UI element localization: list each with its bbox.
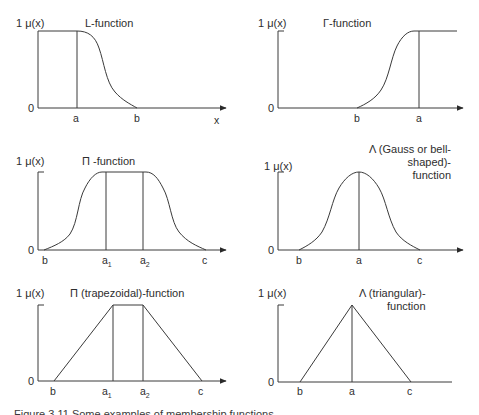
zero-label: 0 — [28, 244, 34, 256]
tick-label-c: c — [202, 254, 207, 266]
tick-label-c: c — [407, 385, 412, 397]
panel-title-line-2: shaped)- — [408, 156, 452, 168]
zero-label: 0 — [268, 376, 274, 388]
tick-label-a: a — [349, 385, 355, 397]
panel-title: Π -function — [82, 155, 135, 167]
y-axis — [38, 172, 44, 250]
y-axis — [278, 31, 284, 108]
membership-curve — [44, 172, 206, 250]
y-axis-label: 1 μ(x) — [16, 155, 44, 167]
membership-curve — [357, 31, 457, 108]
panel-triangular-function: 1 μ(x) Λ (triangular)- function 0 b a c — [258, 287, 452, 397]
panel-title-line-1: Λ (Gauss or bell- — [369, 143, 451, 155]
tick-label-b: b — [134, 112, 140, 124]
panel-title: L-function — [85, 17, 133, 29]
y-axis — [38, 305, 44, 381]
tick-label-a: a — [416, 112, 422, 124]
membership-curve — [300, 305, 411, 382]
tick-label-c: c — [417, 254, 422, 266]
zero-label: 0 — [268, 244, 274, 256]
panel-title-line-3: function — [412, 169, 451, 181]
tick-label-b: b — [354, 112, 360, 124]
membership-curve — [38, 31, 137, 108]
tick-label-a: a — [356, 254, 362, 266]
panel-l-function: 1 μ(x) L-function 0 a b x — [16, 17, 226, 126]
tick-label-a1: a1 — [102, 385, 112, 399]
tick-label-a: a — [73, 112, 79, 124]
panel-trapezoidal-function: 1 μ(x) Π (trapezoidal)-function 0 b a1 a… — [16, 287, 226, 399]
tick-label-b: b — [296, 254, 302, 266]
y-axis-label: 1 μ(x) — [264, 160, 292, 172]
x-axis-label: x — [214, 114, 220, 126]
panel-title-line-2: function — [387, 300, 426, 312]
y-axis — [278, 172, 284, 250]
tick-label-b: b — [297, 385, 303, 397]
tick-label-a1: a1 — [102, 254, 112, 268]
panel-title: Π (trapezoidal)-function — [70, 287, 184, 299]
panel-pi-function: 1 μ(x) Π -function 0 b a1 a2 c — [16, 155, 226, 268]
figure-caption: Figure 3.11 Some examples of membership … — [14, 406, 474, 415]
zero-label: 0 — [28, 375, 34, 387]
tick-label-b: b — [50, 385, 56, 397]
panel-title: Γ-function — [323, 17, 371, 29]
membership-functions-figure: 1 μ(x) L-function 0 a b x 1 μ(x) Γ-funct… — [0, 0, 479, 415]
tick-label-c: c — [198, 385, 203, 397]
panel-gamma-function: 1 μ(x) Γ-function 0 b a — [258, 17, 463, 124]
y-axis-label: 1 μ(x) — [16, 17, 44, 29]
y-axis-label: 1 μ(x) — [258, 287, 286, 299]
panel-title-line-1: Λ (triangular)- — [359, 287, 426, 299]
y-axis-label: 1 μ(x) — [258, 17, 286, 29]
tick-label-a2: a2 — [140, 385, 150, 399]
zero-label: 0 — [28, 102, 34, 114]
tick-label-b: b — [42, 254, 48, 266]
panel-gauss-function: 1 μ(x) Λ (Gauss or bell- shaped)- functi… — [264, 143, 463, 266]
tick-label-a2: a2 — [140, 254, 150, 268]
y-axis-label: 1 μ(x) — [16, 287, 44, 299]
y-axis — [278, 305, 284, 382]
zero-label: 0 — [268, 102, 274, 114]
membership-curve — [54, 305, 202, 381]
